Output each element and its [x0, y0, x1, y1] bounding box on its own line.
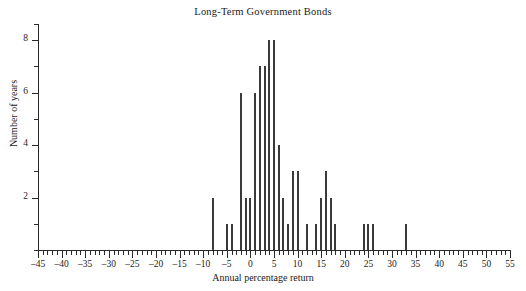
histogram-bar	[325, 171, 327, 250]
y-tick-4	[32, 145, 38, 146]
x-tick-49	[482, 251, 483, 255]
x-tick--31	[104, 251, 105, 255]
x-tick-12	[307, 251, 308, 255]
y-tick-3	[34, 171, 38, 172]
histogram-bar	[273, 40, 275, 250]
x-tick-46	[468, 251, 469, 255]
x-tick--5	[227, 251, 228, 258]
x-tick--10	[203, 251, 204, 258]
x-tick--26	[128, 251, 129, 255]
x-tick-28	[383, 251, 384, 255]
x-tick--6	[222, 251, 223, 255]
x-tick--44	[43, 251, 44, 255]
x-tick--16	[175, 251, 176, 255]
histogram-bar	[249, 198, 251, 251]
x-tick-52	[496, 251, 497, 255]
x-tick-33	[406, 251, 407, 255]
histogram-bar	[240, 93, 242, 251]
x-tick-32	[401, 251, 402, 255]
histogram-bar	[259, 66, 261, 250]
x-tick--27	[123, 251, 124, 255]
x-tick-31	[397, 251, 398, 255]
x-tick-34	[411, 251, 412, 255]
x-tick-5	[274, 251, 275, 258]
x-tick-53	[501, 251, 502, 255]
x-tick-30	[392, 251, 393, 258]
x-tick--35	[85, 251, 86, 258]
x-tick--28	[118, 251, 119, 255]
x-tick-3	[265, 251, 266, 255]
histogram-bar	[367, 224, 369, 250]
y-axis-cap	[34, 24, 38, 25]
histogram-bar	[297, 171, 299, 250]
x-tick-25	[368, 251, 369, 258]
x-tick-11	[302, 251, 303, 255]
x-tick-13	[312, 251, 313, 255]
x-tick--36	[80, 251, 81, 255]
x-tick--41	[57, 251, 58, 255]
x-tick-54	[505, 251, 506, 255]
histogram-bar	[306, 224, 308, 250]
x-tick-10	[298, 251, 299, 258]
x-tick--37	[76, 251, 77, 255]
x-tick-35	[416, 251, 417, 258]
y-tick-label-4: 4	[8, 138, 28, 148]
x-tick--29	[114, 251, 115, 255]
x-tick--40	[62, 251, 63, 258]
x-tick-8	[288, 251, 289, 255]
x-tick--22	[147, 251, 148, 255]
x-tick-29	[387, 251, 388, 255]
x-tick-21	[350, 251, 351, 255]
x-tick--3	[236, 251, 237, 255]
y-tick-label-2: 2	[8, 191, 28, 201]
x-tick--4	[232, 251, 233, 255]
x-tick-7	[283, 251, 284, 255]
x-tick-37	[425, 251, 426, 255]
x-tick-22	[354, 251, 355, 255]
histogram-bar	[212, 198, 214, 251]
histogram-bar	[405, 224, 407, 250]
x-tick-2	[260, 251, 261, 255]
x-tick-24	[364, 251, 365, 255]
x-tick-44	[458, 251, 459, 255]
x-tick--8	[213, 251, 214, 255]
histogram-bar	[254, 93, 256, 251]
chart-title: Long-Term Government Bonds	[0, 6, 526, 17]
x-tick--32	[99, 251, 100, 255]
histogram-bar	[245, 198, 247, 251]
x-tick-26	[373, 251, 374, 255]
x-tick-47	[472, 251, 473, 255]
x-tick-51	[491, 251, 492, 255]
histogram-bar	[231, 224, 233, 250]
x-tick--30	[109, 251, 110, 258]
histogram-bar	[372, 224, 374, 250]
x-tick--23	[142, 251, 143, 255]
y-tick-label-8: 8	[8, 33, 28, 43]
x-tick-0	[250, 251, 251, 258]
x-tick-42	[449, 251, 450, 255]
x-tick-14	[316, 251, 317, 255]
histogram-bar	[315, 224, 317, 250]
x-tick-40	[439, 251, 440, 258]
x-tick--15	[180, 251, 181, 258]
x-tick-48	[477, 251, 478, 255]
x-tick-45	[463, 251, 464, 258]
x-tick-15	[321, 251, 322, 258]
x-tick-label-55: 55	[490, 259, 526, 269]
x-tick--42	[52, 251, 53, 255]
x-tick--1	[246, 251, 247, 255]
x-tick--11	[198, 251, 199, 255]
histogram-bar	[320, 198, 322, 251]
x-tick-19	[340, 251, 341, 255]
x-tick--12	[194, 251, 195, 255]
y-tick-2	[32, 198, 38, 199]
histogram-bar	[226, 224, 228, 250]
x-tick-27	[378, 251, 379, 255]
histogram-bar	[363, 224, 365, 250]
x-tick--7	[217, 251, 218, 255]
x-tick-6	[279, 251, 280, 255]
x-tick-23	[359, 251, 360, 255]
x-tick-20	[345, 251, 346, 258]
x-tick--21	[151, 251, 152, 255]
histogram-bar	[264, 66, 266, 250]
